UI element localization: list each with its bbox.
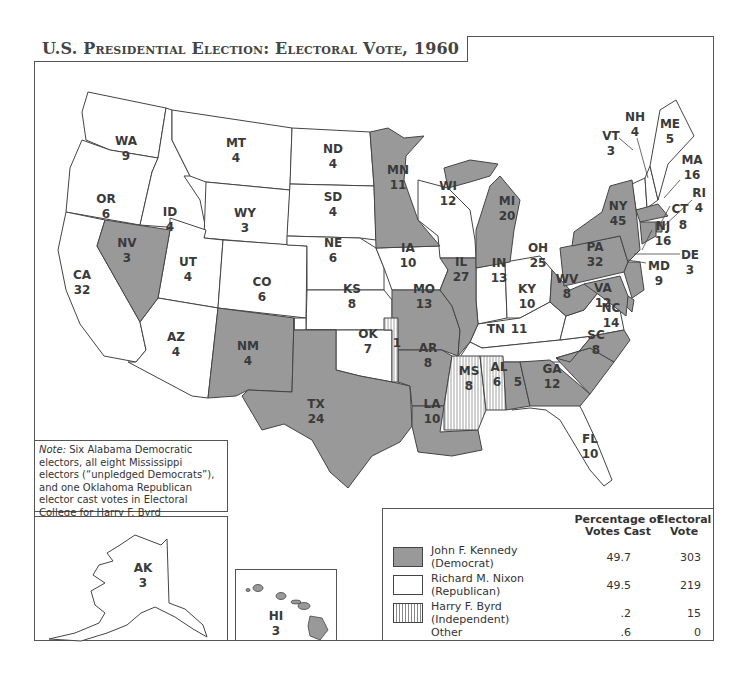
svg-text:10: 10	[519, 297, 536, 311]
state-ME	[650, 100, 694, 200]
label-SC: SC	[587, 328, 605, 342]
legend: Percentage ofVotes Cast ElectoralVote Jo…	[382, 508, 714, 641]
svg-text:4: 4	[232, 151, 240, 165]
svg-text:4: 4	[631, 125, 639, 139]
label-NM: NM	[237, 339, 259, 353]
svg-text:11: 11	[511, 322, 528, 336]
state-HI	[246, 585, 328, 641]
svg-text:20: 20	[499, 209, 516, 223]
label-MS: MS	[459, 364, 480, 378]
label-DE: DE	[681, 248, 699, 262]
note-prefix: Note:	[39, 444, 66, 455]
legend-header-ev: ElectoralVote	[651, 514, 717, 538]
legend-row-nixon: Richard M. Nixon (Republican) 49.5 219	[393, 574, 708, 596]
map-title: U.S. Presidential Election: Electoral Vo…	[42, 39, 459, 58]
svg-text:25: 25	[530, 256, 547, 270]
svg-text:5: 5	[514, 375, 522, 389]
label-AZ: AZ	[167, 330, 185, 344]
state-MT	[172, 110, 292, 190]
label-UT: UT	[179, 255, 198, 269]
state-NM	[208, 308, 294, 398]
svg-text:5: 5	[666, 132, 674, 146]
legend-row-other: Other .6 0	[393, 625, 708, 639]
label-TN: TN	[487, 322, 505, 336]
label-SD: SD	[324, 190, 343, 204]
label-OH: OH	[528, 241, 548, 255]
title-box: U.S. Presidential Election: Electoral Vo…	[34, 36, 468, 62]
label-VT: VT	[602, 129, 620, 143]
svg-text:3: 3	[123, 251, 131, 265]
label-ID: ID	[163, 205, 177, 219]
svg-text:6: 6	[258, 290, 266, 304]
label-KY: KY	[518, 282, 536, 296]
svg-text:16: 16	[655, 234, 672, 248]
svg-text:12: 12	[440, 194, 457, 208]
svg-text:24: 24	[308, 412, 325, 426]
svg-text:3: 3	[139, 576, 147, 590]
svg-text:8: 8	[348, 297, 356, 311]
label-LA: LA	[424, 397, 442, 411]
svg-text:10: 10	[582, 447, 599, 461]
label-MD: MD	[648, 259, 670, 273]
kennedy-swatch	[393, 547, 423, 567]
label-HI: HI	[269, 609, 284, 623]
label-KS: KS	[343, 282, 361, 296]
svg-text:4: 4	[172, 345, 180, 359]
label-VA: VA	[594, 281, 612, 295]
state-CT	[640, 222, 656, 244]
note-box: Note: Six Alabama Democratic electors, a…	[34, 440, 228, 512]
svg-text:3: 3	[241, 221, 249, 235]
svg-text:4: 4	[329, 205, 337, 219]
label-IL: IL	[455, 255, 467, 269]
svg-text:6: 6	[329, 251, 337, 265]
label-NE: NE	[324, 236, 342, 250]
label-NJ: NJ	[656, 219, 671, 233]
svg-text:4: 4	[329, 157, 337, 171]
svg-text:4: 4	[695, 201, 703, 215]
label-WY: WY	[234, 206, 256, 220]
svg-text:4: 4	[184, 270, 192, 284]
svg-text:3: 3	[686, 263, 694, 277]
svg-text:13: 13	[491, 271, 508, 285]
svg-text:8: 8	[563, 287, 571, 301]
label-AL: AL	[491, 360, 508, 374]
label-NY: NY	[609, 199, 628, 213]
svg-text:3: 3	[272, 624, 280, 638]
svg-text:32: 32	[74, 283, 91, 297]
label-RI: RI	[692, 186, 706, 200]
legend-header-pct: Percentage ofVotes Cast	[573, 514, 663, 538]
label-NH: NH	[625, 110, 645, 124]
note-text: Six Alabama Democratic electors, all eig…	[39, 444, 214, 518]
label-IN: IN	[492, 256, 507, 270]
svg-text:45: 45	[610, 214, 627, 228]
svg-text:6: 6	[493, 375, 501, 389]
label-FL: FL	[582, 432, 598, 446]
legend-row-kennedy: John F. Kennedy (Democrat) 49.7 303	[393, 546, 708, 568]
label-CT: CT	[672, 202, 690, 216]
label-WI: WI	[439, 179, 457, 193]
label-AK: AK	[134, 561, 153, 575]
label-ND: ND	[323, 142, 343, 156]
label-CA: CA	[73, 268, 92, 282]
label-ME: ME	[660, 117, 680, 131]
hawaii-inset: HI 3	[235, 569, 337, 641]
label-CO: CO	[252, 275, 271, 289]
svg-text:16: 16	[684, 168, 701, 182]
label-AR: AR	[419, 341, 438, 355]
other-swatch-empty	[393, 622, 423, 642]
label-MO: MO	[413, 282, 435, 296]
svg-text:32: 32	[587, 255, 604, 269]
svg-text:6: 6	[102, 207, 110, 221]
svg-text:9: 9	[122, 149, 130, 163]
svg-text:11: 11	[390, 178, 407, 192]
svg-text:27: 27	[453, 270, 470, 284]
label-MN: MN	[387, 163, 409, 177]
legend-row-byrd: Harry F. Byrd (Independent) .2 15	[393, 602, 708, 624]
label-OK-byrd: 1	[393, 336, 401, 350]
svg-text:10: 10	[424, 412, 441, 426]
svg-text:3: 3	[607, 144, 615, 158]
svg-text:9: 9	[655, 274, 663, 288]
svg-text:13: 13	[416, 297, 433, 311]
label-TX: TX	[307, 397, 325, 411]
svg-text:12: 12	[595, 296, 612, 310]
